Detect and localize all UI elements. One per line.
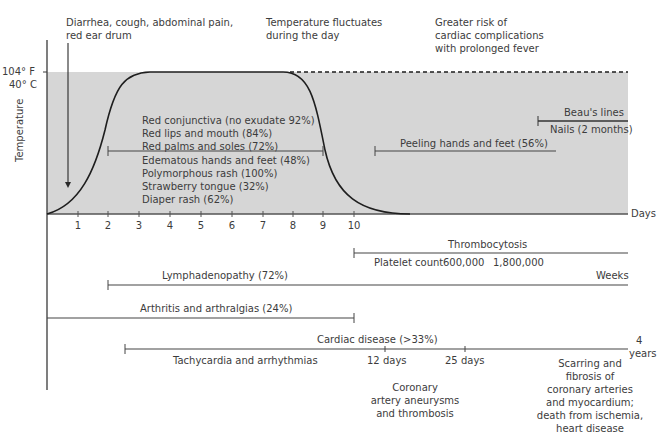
symptom-strawberry-tongue: Strawberry tongue (32%) (142, 181, 269, 193)
symptom-diaper-rash: Diaper rash (62%) (142, 194, 233, 206)
symptom-polymorphous-rash: Polymorphous rash (100%) (142, 168, 277, 180)
x-tick-7: 7 (257, 220, 269, 232)
scarring-line5: death from ischemia, (530, 410, 650, 422)
x-tick-1: 1 (72, 220, 84, 232)
years-number: 4 (636, 335, 642, 347)
y-axis-label: Temperature (14, 99, 25, 162)
aneurysm-line1: Coronary (370, 382, 460, 394)
y-tick-fahrenheit: 104° F (2, 66, 35, 78)
platelet-high: 1,800,000 (493, 257, 544, 269)
scarring-line4: and myocardium; (530, 397, 650, 409)
beaus-lines-label: Beau's lines (564, 107, 624, 119)
arthritis-label: Arthritis and arthralgias (24%) (140, 303, 292, 315)
x-tick-5: 5 (195, 220, 207, 232)
lymphadenopathy-label: Lymphadenopathy (72%) (162, 270, 288, 282)
x-tick-10: 10 (344, 220, 364, 232)
x-tick-2: 2 (102, 220, 114, 232)
scarring-line3: coronary arteries (530, 384, 650, 396)
x-tick-4: 4 (164, 220, 176, 232)
peeling-label: Peeling hands and feet (56%) (400, 138, 548, 150)
thrombocytosis-label: Thrombocytosis (448, 239, 527, 251)
cardiac-disease-label: Cardiac disease (>33%) (317, 334, 438, 346)
tachycardia-label: Tachycardia and arrhythmias (173, 355, 318, 367)
aneurysm-line3: and thrombosis (370, 408, 460, 420)
symptom-red-lips: Red lips and mouth (84%) (142, 128, 272, 140)
risk-note-line2: cardiac complications (435, 30, 544, 42)
risk-note-line3: with prolonged fever (435, 43, 539, 55)
scarring-line2: fibrosis of (530, 371, 650, 383)
platelet-count-label: Platelet count (374, 257, 443, 269)
symptom-edematous: Edematous hands and feet (48%) (142, 155, 310, 167)
symptom-red-palms: Red palms and soles (72%) (142, 141, 278, 153)
x-tick-9: 9 (317, 220, 329, 232)
weeks-label: Weeks (596, 270, 629, 282)
platelet-low: 600,000 (443, 257, 484, 269)
y-tick-celsius: 40° C (9, 79, 37, 91)
scarring-line6: heart disease (530, 423, 650, 435)
nails-label: Nails (2 months) (550, 124, 633, 136)
early-symptoms-line1: Diarrhea, cough, abdominal pain, (66, 17, 233, 29)
scarring-line1: Scarring and (530, 358, 650, 370)
day12-label: 12 days (367, 355, 407, 367)
temp-note-line1: Temperature fluctuates (266, 17, 382, 29)
symptom-red-conjunctiva: Red conjunctiva (no exudate 92%) (142, 115, 315, 127)
day25-label: 25 days (445, 355, 485, 367)
x-axis-label-days: Days (631, 208, 656, 220)
temp-note-line2: during the day (266, 30, 339, 42)
x-tick-3: 3 (133, 220, 145, 232)
aneurysm-line2: artery aneurysms (370, 395, 460, 407)
x-tick-6: 6 (226, 220, 238, 232)
early-symptoms-line2: red ear drum (66, 30, 132, 42)
risk-note-line1: Greater risk of (435, 17, 507, 29)
x-tick-8: 8 (287, 220, 299, 232)
